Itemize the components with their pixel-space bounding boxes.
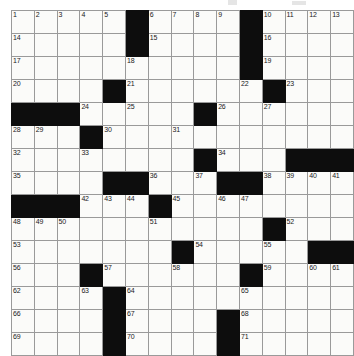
crossword-cell[interactable]	[80, 218, 103, 241]
crossword-cell[interactable]	[148, 126, 171, 149]
crossword-cell[interactable]: 61	[331, 264, 354, 287]
crossword-cell[interactable]: 4	[80, 11, 103, 34]
crossword-cell[interactable]	[171, 57, 194, 80]
crossword-cell[interactable]: 6	[148, 11, 171, 34]
crossword-cell[interactable]	[103, 241, 126, 264]
crossword-cell[interactable]	[285, 264, 308, 287]
crossword-cell[interactable]	[239, 241, 262, 264]
crossword-cell[interactable]	[217, 34, 240, 57]
crossword-cell[interactable]	[34, 310, 57, 333]
crossword-cell[interactable]: 8	[194, 11, 217, 34]
crossword-cell[interactable]: 68	[239, 310, 262, 333]
crossword-cell[interactable]	[34, 34, 57, 57]
crossword-cell[interactable]: 17	[12, 57, 35, 80]
crossword-cell[interactable]: 41	[331, 172, 354, 195]
crossword-cell[interactable]	[57, 310, 80, 333]
crossword-cell[interactable]: 37	[194, 172, 217, 195]
crossword-cell[interactable]	[239, 149, 262, 172]
crossword-cell[interactable]	[34, 80, 57, 103]
crossword-cell[interactable]	[331, 80, 354, 103]
crossword-cell[interactable]	[57, 241, 80, 264]
crossword-cell[interactable]	[103, 57, 126, 80]
crossword-cell[interactable]	[217, 126, 240, 149]
crossword-cell[interactable]	[125, 241, 148, 264]
crossword-cell[interactable]: 53	[12, 241, 35, 264]
crossword-cell[interactable]: 20	[12, 80, 35, 103]
crossword-cell[interactable]: 38	[262, 172, 285, 195]
crossword-cell[interactable]	[194, 80, 217, 103]
crossword-cell[interactable]	[171, 80, 194, 103]
crossword-cell[interactable]	[217, 80, 240, 103]
crossword-cell[interactable]: 59	[262, 264, 285, 287]
crossword-cell[interactable]: 36	[148, 172, 171, 195]
crossword-cell[interactable]	[57, 57, 80, 80]
crossword-cell[interactable]	[308, 310, 331, 333]
crossword-cell[interactable]	[34, 287, 57, 310]
crossword-cell[interactable]	[34, 264, 57, 287]
crossword-cell[interactable]	[308, 57, 331, 80]
crossword-cell[interactable]	[217, 218, 240, 241]
crossword-cell[interactable]	[239, 126, 262, 149]
crossword-cell[interactable]	[34, 57, 57, 80]
crossword-cell[interactable]: 24	[80, 103, 103, 126]
crossword-cell[interactable]: 26	[217, 103, 240, 126]
crossword-cell[interactable]: 54	[194, 241, 217, 264]
crossword-cell[interactable]: 69	[12, 333, 35, 356]
crossword-cell[interactable]	[148, 149, 171, 172]
crossword-grid[interactable]: 1234567891011121314151617181920212223242…	[11, 10, 354, 356]
crossword-cell[interactable]	[285, 195, 308, 218]
crossword-cell[interactable]	[331, 195, 354, 218]
crossword-cell[interactable]: 18	[125, 57, 148, 80]
crossword-cell[interactable]	[262, 126, 285, 149]
crossword-cell[interactable]	[308, 34, 331, 57]
crossword-cell[interactable]: 58	[171, 264, 194, 287]
crossword-cell[interactable]: 27	[262, 103, 285, 126]
crossword-cell[interactable]: 49	[34, 218, 57, 241]
crossword-cell[interactable]	[34, 172, 57, 195]
crossword-cell[interactable]	[125, 126, 148, 149]
crossword-cell[interactable]: 51	[148, 218, 171, 241]
crossword-cell[interactable]	[331, 287, 354, 310]
crossword-cell[interactable]	[125, 149, 148, 172]
crossword-cell[interactable]	[57, 149, 80, 172]
crossword-cell[interactable]	[217, 264, 240, 287]
crossword-cell[interactable]	[308, 218, 331, 241]
crossword-cell[interactable]: 60	[308, 264, 331, 287]
crossword-cell[interactable]	[34, 149, 57, 172]
crossword-cell[interactable]	[171, 172, 194, 195]
crossword-cell[interactable]	[217, 287, 240, 310]
crossword-cell[interactable]	[57, 172, 80, 195]
crossword-cell[interactable]: 9	[217, 11, 240, 34]
crossword-cell[interactable]: 66	[12, 310, 35, 333]
crossword-cell[interactable]: 48	[12, 218, 35, 241]
crossword-cell[interactable]: 32	[12, 149, 35, 172]
crossword-cell[interactable]: 44	[125, 195, 148, 218]
crossword-cell[interactable]	[262, 287, 285, 310]
crossword-cell[interactable]	[331, 310, 354, 333]
crossword-cell[interactable]: 62	[12, 287, 35, 310]
crossword-cell[interactable]	[80, 333, 103, 356]
crossword-cell[interactable]	[34, 241, 57, 264]
crossword-cell[interactable]	[331, 126, 354, 149]
crossword-cell[interactable]: 13	[331, 11, 354, 34]
crossword-cell[interactable]	[308, 195, 331, 218]
crossword-cell[interactable]: 7	[171, 11, 194, 34]
crossword-cell[interactable]	[103, 218, 126, 241]
crossword-cell[interactable]: 11	[285, 11, 308, 34]
crossword-cell[interactable]: 50	[57, 218, 80, 241]
crossword-cell[interactable]	[331, 103, 354, 126]
crossword-cell[interactable]	[148, 57, 171, 80]
crossword-cell[interactable]: 57	[103, 264, 126, 287]
crossword-cell[interactable]	[148, 241, 171, 264]
crossword-cell[interactable]	[194, 195, 217, 218]
crossword-cell[interactable]: 33	[80, 149, 103, 172]
crossword-cell[interactable]	[80, 34, 103, 57]
crossword-cell[interactable]: 14	[12, 34, 35, 57]
crossword-cell[interactable]	[57, 80, 80, 103]
crossword-cell[interactable]	[262, 195, 285, 218]
crossword-cell[interactable]: 15	[148, 34, 171, 57]
crossword-cell[interactable]	[171, 218, 194, 241]
crossword-cell[interactable]: 23	[285, 80, 308, 103]
crossword-cell[interactable]	[125, 218, 148, 241]
crossword-cell[interactable]	[57, 333, 80, 356]
